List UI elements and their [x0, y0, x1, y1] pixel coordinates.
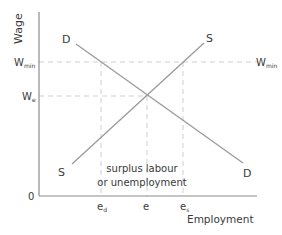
wmin-right-label: Wmin — [256, 57, 277, 69]
supply-curve — [72, 43, 204, 164]
es-tick-label: es — [180, 201, 189, 213]
wmin-tick-label: Wmin — [14, 57, 35, 69]
demand-bottom-label: D — [243, 167, 251, 180]
origin-label: 0 — [28, 191, 34, 202]
labour-market-diagram: Wage Wmin We Wmin 0 ed e es Employment D… — [0, 0, 282, 235]
x-axis-label: Employment — [187, 213, 254, 225]
surplus-annotation-line1: surplus labour — [106, 163, 178, 174]
e-tick-label: e — [143, 201, 149, 212]
surplus-annotation-line2: or unemployment — [97, 177, 186, 188]
y-axis-label: Wage — [12, 13, 25, 44]
supply-bottom-label: S — [58, 166, 65, 179]
we-tick-label: We — [22, 91, 36, 103]
ed-tick-label: ed — [97, 201, 107, 213]
supply-top-label: S — [206, 32, 213, 45]
demand-top-label: D — [62, 33, 70, 46]
